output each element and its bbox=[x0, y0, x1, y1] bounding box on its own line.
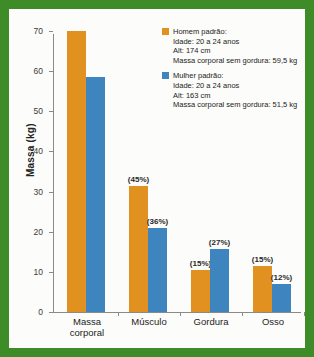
legend-swatch-female-icon bbox=[162, 72, 169, 79]
x-category-line: Gordura bbox=[194, 316, 229, 327]
bar-percent-label: (12%) bbox=[271, 273, 292, 282]
y-tick: 40 bbox=[49, 151, 53, 152]
x-category-line: Osso bbox=[262, 316, 284, 327]
bar-male bbox=[67, 31, 86, 312]
legend-line-female-age: Idade: 20 a 24 anos bbox=[173, 81, 297, 91]
bar-percent-label: (36%) bbox=[147, 217, 168, 226]
bar-percent-label: (15%) bbox=[190, 259, 211, 268]
chart-screenshot: Massa (kg) 010203040506070 Massacorporal… bbox=[0, 0, 314, 357]
y-axis-line bbox=[53, 34, 54, 312]
y-tick: 70 bbox=[49, 31, 53, 32]
bar-group: Massacorporal bbox=[67, 31, 107, 312]
x-tick bbox=[304, 312, 305, 316]
x-category-label: Músculo bbox=[131, 316, 166, 327]
x-axis-line bbox=[53, 312, 301, 313]
x-tick bbox=[242, 312, 243, 316]
y-tick-label: 10 bbox=[34, 267, 43, 277]
y-tick: 20 bbox=[49, 232, 53, 233]
y-tick-label: 70 bbox=[34, 26, 43, 36]
legend-line-male-leanmass: Massa corporal sem gordura: 59,5 kg bbox=[173, 56, 297, 66]
x-category-line: Massa bbox=[70, 316, 104, 327]
bar-female: (27%) bbox=[210, 249, 229, 312]
chart-legend: Homem padrão: Idade: 20 a 24 anos Alt: 1… bbox=[162, 27, 302, 116]
y-tick-label: 0 bbox=[38, 307, 43, 317]
y-tick: 50 bbox=[49, 111, 53, 112]
legend-title-male: Homem padrão: bbox=[173, 27, 297, 37]
y-tick-label: 40 bbox=[34, 146, 43, 156]
bar-female: (36%) bbox=[148, 228, 167, 312]
x-category-label: Massacorporal bbox=[70, 316, 104, 338]
bar-male: (45%) bbox=[129, 186, 148, 312]
y-tick-label: 60 bbox=[34, 66, 43, 76]
y-tick-label: 30 bbox=[34, 187, 43, 197]
legend-line-female-height: Alt: 163 cm bbox=[173, 91, 297, 101]
bar-female: (12%) bbox=[272, 284, 291, 312]
chart-canvas: Massa (kg) 010203040506070 Massacorporal… bbox=[9, 9, 305, 348]
y-tick-label: 20 bbox=[34, 227, 43, 237]
legend-title-female: Mulher padrão: bbox=[173, 71, 297, 81]
legend-swatch-male-icon bbox=[162, 28, 169, 35]
y-tick: 60 bbox=[49, 71, 53, 72]
y-tick: 10 bbox=[49, 272, 53, 273]
x-category-line: Músculo bbox=[131, 316, 166, 327]
x-category-label: Osso bbox=[262, 316, 284, 327]
legend-line-female-leanmass: Massa corporal sem gordura: 51,5 kg bbox=[173, 100, 297, 110]
x-tick bbox=[180, 312, 181, 316]
bar-male: (15%) bbox=[253, 266, 272, 312]
legend-entry-male: Homem padrão: Idade: 20 a 24 anos Alt: 1… bbox=[162, 27, 302, 65]
bar-percent-label: (15%) bbox=[252, 255, 273, 264]
legend-entry-female: Mulher padrão: Idade: 20 a 24 anos Alt: … bbox=[162, 71, 302, 109]
bar-percent-label: (45%) bbox=[128, 175, 149, 184]
legend-line-male-height: Alt: 174 cm bbox=[173, 46, 297, 56]
x-tick bbox=[118, 312, 119, 316]
x-category-line: corporal bbox=[70, 327, 104, 338]
bar-percent-label: (27%) bbox=[209, 238, 230, 247]
bar-female bbox=[86, 77, 105, 312]
y-tick: 30 bbox=[49, 192, 53, 193]
y-tick-label: 50 bbox=[34, 106, 43, 116]
x-category-label: Gordura bbox=[194, 316, 229, 327]
legend-line-male-age: Idade: 20 a 24 anos bbox=[173, 37, 297, 47]
bar-male: (15%) bbox=[191, 270, 210, 312]
y-tick: 0 bbox=[49, 312, 53, 313]
